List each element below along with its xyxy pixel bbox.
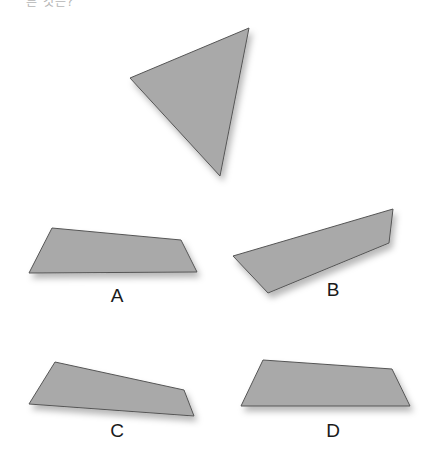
option-b-label[interactable]: B bbox=[327, 279, 340, 301]
option-a-label[interactable]: A bbox=[111, 285, 124, 307]
option-a-shape[interactable] bbox=[29, 228, 197, 273]
option-b-shape[interactable] bbox=[233, 209, 393, 293]
option-d-shape[interactable] bbox=[241, 360, 410, 406]
reference-triangle bbox=[130, 28, 249, 176]
option-d-label[interactable]: D bbox=[326, 420, 340, 442]
option-c-shape[interactable] bbox=[29, 362, 194, 416]
figure-canvas bbox=[0, 0, 435, 468]
option-c-label[interactable]: C bbox=[110, 420, 124, 442]
